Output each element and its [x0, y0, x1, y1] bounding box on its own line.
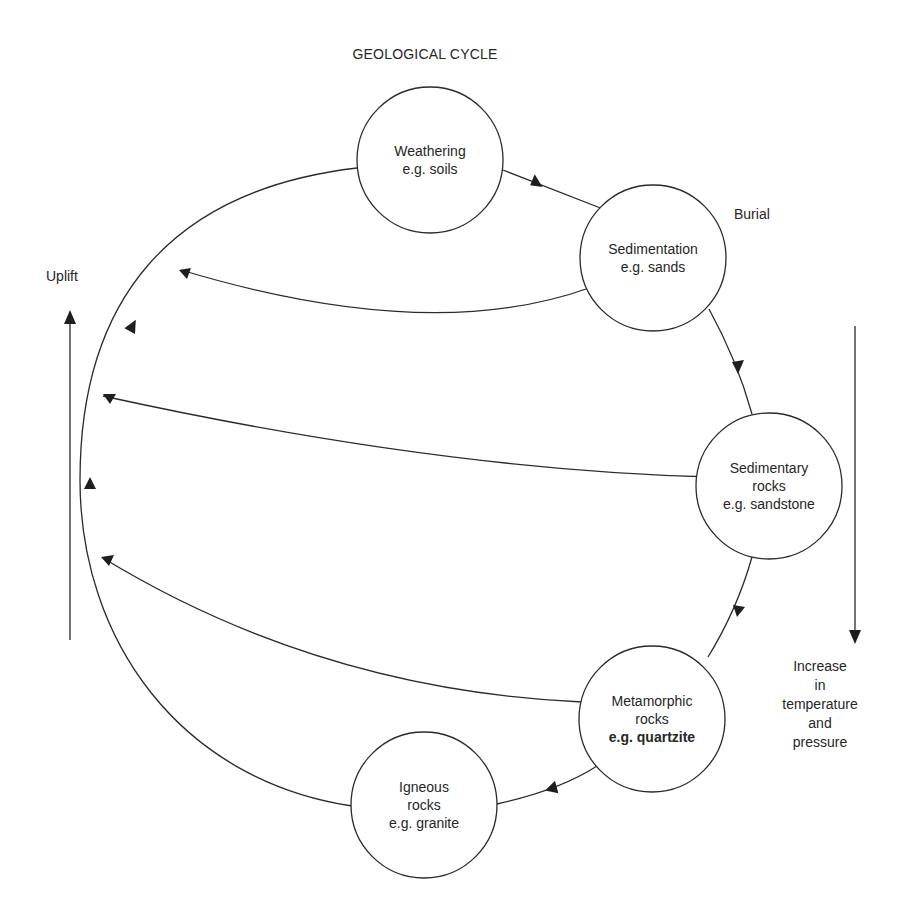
arrowhead-icon: [179, 268, 191, 279]
node-example: e.g. soils: [402, 160, 457, 178]
uplift-arrowhead-icon: [64, 310, 76, 324]
node-sedimentation: Sedimentation e.g. sands: [580, 185, 726, 331]
node-example: e.g. sandstone: [723, 495, 815, 513]
increase-line-2: in: [815, 676, 826, 695]
node-label: Sedimentary: [730, 459, 809, 477]
node-igneous-rocks: Igneous rocks e.g. granite: [351, 732, 497, 878]
burial-label: Burial: [734, 206, 770, 223]
arrowhead-icon: [124, 317, 141, 334]
arrowhead-icon: [101, 555, 114, 566]
node-label: Weathering: [394, 142, 465, 160]
increase-arrowhead-icon: [849, 630, 861, 644]
node-example: e.g. sands: [621, 258, 686, 276]
increase-temperature-pressure-label: Increase in temperature and pressure: [760, 654, 880, 754]
increase-line-4: and: [808, 714, 831, 733]
node-label: Metamorphic: [612, 692, 693, 710]
arrowhead-icon: [732, 360, 744, 374]
arrowhead-icon: [530, 174, 546, 190]
increase-line-5: pressure: [793, 733, 847, 752]
node-label-2: rocks: [752, 477, 785, 495]
node-label-2: rocks: [635, 710, 668, 728]
return-arrow-metamorphic: [103, 558, 582, 702]
arrowhead-icon: [543, 781, 558, 797]
node-label: Sedimentation: [608, 240, 698, 258]
node-label: Igneous: [399, 778, 449, 796]
node-sedimentary-rocks: Sedimentary rocks e.g. sandstone: [696, 413, 842, 559]
node-metamorphic-rocks: Metamorphic rocks e.g. quartzite: [579, 646, 725, 792]
cycle-arc-sedimentary-to-metamorphic: [708, 557, 752, 657]
node-example: e.g. granite: [389, 814, 459, 832]
return-arrow-sedimentation: [181, 270, 589, 313]
increase-line-3: temperature: [782, 695, 857, 714]
uplift-label: Uplift: [46, 268, 78, 285]
node-label-2: rocks: [407, 796, 440, 814]
diagram-title: GEOLOGICAL CYCLE: [330, 46, 520, 62]
return-arrow-sedimentary: [103, 396, 712, 477]
arrowhead-icon: [84, 477, 96, 489]
cycle-arc-igneous-to-weathering: [80, 168, 357, 806]
node-example: e.g. quartzite: [609, 728, 695, 746]
arrowhead-icon: [733, 605, 745, 617]
node-weathering: Weathering e.g. soils: [357, 87, 503, 233]
increase-line-1: Increase: [793, 657, 847, 676]
